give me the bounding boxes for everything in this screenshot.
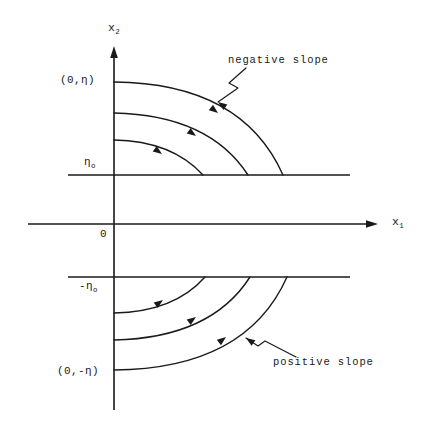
leader-arrowhead-positive-slope-pointer [244,335,255,346]
negative-eta-zero-base: -η [79,280,93,292]
trajectory-curves-layer [114,82,287,370]
curve-upper-trajectory-middle [114,113,248,175]
level-label-eta-zero: ηo [84,157,96,168]
eta-zero-subscript: o [91,162,96,170]
point-label-zero-eta: (0,η) [60,75,95,86]
y-axis-label: x2 [108,22,120,34]
annotation-positive-slope: positive slope [273,357,374,368]
eta-zero-base: η [84,156,91,168]
direction-arrow-upper-trajectory-outer [209,105,220,116]
y-axis-arrowhead [110,46,118,58]
curve-lower-trajectory-outer [114,277,287,370]
annotation-negative-slope: negative slope [228,55,329,66]
point-label-zero-negative-eta: (0,-η) [57,366,99,377]
leader-line-negative-slope-pointer [218,68,246,102]
x-axis-label-subscript: 1 [399,222,404,230]
negative-eta-zero-subscript: o [93,286,98,294]
curve-upper-trajectory-outer [114,82,283,175]
curve-lower-trajectory-middle [114,277,250,340]
y-axis-label-subscript: 2 [115,28,120,36]
level-label-negative-eta-zero: -ηo [79,281,98,292]
x-axis-label: x1 [392,216,404,228]
direction-arrow-lower-trajectory-outer [217,334,228,345]
annotation-pointers-layer [216,68,296,357]
curve-upper-trajectory-inner [114,140,203,175]
origin-label: 0 [100,229,107,240]
curve-lower-trajectory-inner [114,277,205,313]
x-axis-arrowhead [366,220,378,228]
phase-plane-figure: x2 x1 (0,η) ηo 0 -ηo (0,-η) negative slo… [0,0,430,435]
